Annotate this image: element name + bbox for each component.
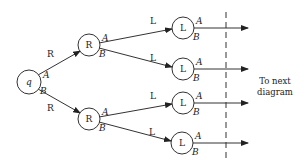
caption-line-2: diagram: [257, 87, 293, 97]
node-r1-port-b: B: [98, 49, 106, 59]
edge-r1-to-l1: [99, 29, 172, 43]
edges: [38, 28, 248, 143]
node-l1-label: L: [180, 23, 186, 33]
edge-r2-to-l4: [99, 122, 171, 141]
edge-r1-to-l2: [99, 48, 172, 67]
edge-label-r2: R: [47, 103, 54, 113]
node-l4-port-b: B: [191, 147, 199, 157]
edge-label-l1: L: [150, 16, 156, 26]
node-l3-label: L: [180, 98, 186, 108]
edge-label-r1: R: [47, 49, 54, 59]
node-l3-port-a: A: [195, 91, 203, 101]
edge-label-l4: L: [149, 127, 155, 137]
node-r2-label: R: [86, 114, 93, 124]
edge-label-l2: L: [150, 53, 156, 63]
node-l2-port-a: A: [195, 57, 203, 67]
edge-r2-to-l3: [99, 104, 172, 117]
node-l2-label: L: [180, 64, 186, 74]
node-l4-label: L: [179, 138, 185, 148]
node-l4-port-a: A: [194, 131, 202, 141]
node-l1-port-a: A: [195, 16, 203, 26]
node-q-label: q: [26, 77, 32, 87]
node-r2-port-a: A: [101, 107, 109, 117]
node-l3-port-b: B: [192, 107, 200, 117]
caption-line-1: To next: [259, 76, 291, 86]
node-r1-port-a: A: [101, 33, 109, 43]
node-r2-port-b: B: [98, 123, 106, 133]
node-l1-port-b: B: [192, 32, 200, 42]
edge-label-l3: L: [150, 91, 156, 101]
node-q-port-a: A: [42, 70, 50, 80]
node-q-port-b: B: [39, 86, 47, 96]
node-l2-port-b: B: [192, 73, 200, 83]
node-r1-label: R: [86, 40, 93, 50]
state-tree-diagram: qRRLLLL RRLLLLABABABABABABAB To next dia…: [0, 0, 306, 168]
